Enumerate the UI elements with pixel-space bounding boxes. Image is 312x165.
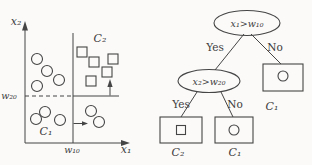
class2-square-point	[77, 47, 87, 57]
circle-class-symbol	[278, 71, 288, 81]
class2-square-point	[102, 67, 112, 77]
circle-class-symbol	[229, 125, 239, 135]
leaf-node-c1-right	[263, 64, 303, 91]
textbook-figure: x₂ w₂₀ C₁ C₂ w₁₀ x₁ x₁>w₁₀ x₂>w₂₀ Yes No…	[0, 0, 312, 165]
y-axis-arrow-icon	[22, 21, 28, 31]
class1-circle-point	[86, 106, 97, 117]
threshold-w20-label: w₂₀	[1, 91, 17, 101]
region-label-c2: C₂	[94, 33, 107, 44]
class1-circle-point	[31, 114, 42, 125]
x-axis-label: x₁	[121, 144, 132, 155]
node2-no-label: No	[227, 98, 243, 110]
split-arrow-up	[107, 79, 112, 96]
square-class-symbol	[177, 126, 186, 135]
class2-square-point	[86, 76, 96, 86]
leaf-node-c2	[160, 117, 202, 143]
leaf-node-c1-middle	[215, 117, 253, 143]
class1-circle-point	[32, 54, 43, 65]
second-decision-label: x₂>w₂₀	[193, 76, 226, 87]
scatter-circle-points	[31, 54, 105, 128]
class2-square-point	[89, 57, 99, 67]
node2-yes-label: Yes	[171, 98, 190, 110]
scatter-plot	[0, 0, 155, 165]
class1-circle-point	[94, 117, 105, 128]
class1-circle-point	[54, 75, 65, 86]
class2-square-point	[108, 54, 118, 64]
leaf-c1-right-class-label: C₁	[266, 100, 279, 113]
class1-circle-point	[32, 81, 43, 92]
leaf-c1-middle-class-label: C₁	[229, 146, 242, 159]
y-axis-label: x₂	[11, 16, 22, 27]
class1-circle-point	[55, 115, 66, 126]
class1-circle-point	[42, 66, 53, 77]
threshold-w10-label: w₁₀	[64, 145, 80, 155]
root-yes-label: Yes	[205, 41, 224, 53]
region-label-c1: C₁	[40, 126, 53, 137]
decision-tree: x₁>w₁₀ x₂>w₂₀ Yes No Yes No C₂ C₁ C₁	[155, 0, 312, 165]
root-decision-label: x₁>w₁₀	[231, 18, 264, 29]
root-no-label: No	[267, 41, 283, 53]
scatter-square-points	[77, 47, 118, 86]
split-arrow-right	[74, 121, 89, 126]
leaf-c2-class-label: C₂	[172, 146, 185, 159]
